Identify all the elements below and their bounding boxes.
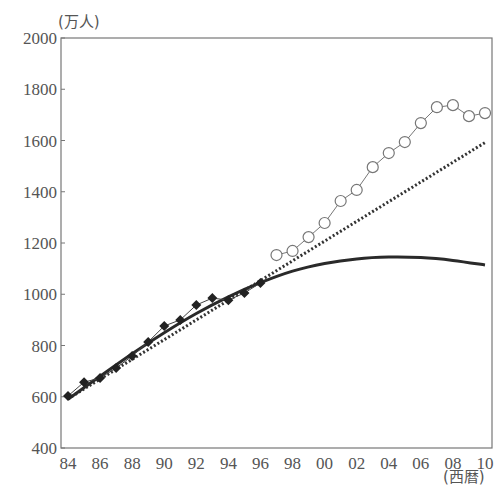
circle-marker: [335, 195, 346, 206]
x-tick-label: 96: [252, 454, 269, 473]
circle-marker: [447, 100, 458, 111]
series-layer: [63, 100, 491, 401]
circle-marker: [463, 111, 474, 122]
x-tick-label: 86: [92, 454, 109, 473]
circle-marker: [383, 148, 394, 159]
circle-marker: [480, 108, 491, 119]
x-tick-label: 84: [60, 454, 78, 473]
circle-marker: [431, 102, 442, 113]
x-tick-label: 04: [380, 454, 398, 473]
x-tick-label: 92: [188, 454, 205, 473]
y-tick-label: 1200: [23, 234, 57, 253]
circle-marker: [271, 250, 282, 261]
circle-marker: [415, 118, 426, 129]
x-tick-label: 90: [156, 454, 173, 473]
y-tick-label: 1400: [23, 183, 57, 202]
y-axis-unit-label: (万人): [58, 13, 100, 31]
fitted-curve-solid: [68, 257, 485, 399]
plot-border: [61, 38, 492, 448]
circle-marker: [287, 245, 298, 256]
y-tick-label: 1800: [23, 80, 57, 99]
y-tick-label: 800: [32, 337, 58, 356]
x-axis-ticks: 8486889092949698000204060810: [60, 454, 494, 473]
x-axis-unit-label: (西暦): [443, 468, 485, 486]
x-tick-label: 88: [124, 454, 141, 473]
y-tick-label: 400: [32, 439, 58, 458]
plot-frame: [61, 38, 492, 448]
x-tick-label: 02: [348, 454, 365, 473]
circle-marker: [351, 184, 362, 195]
line-chart: 400600800100012001400160018002000 848688…: [0, 0, 499, 501]
circle-marker: [303, 232, 314, 243]
circle-marker: [319, 218, 330, 229]
y-tick-label: 1000: [23, 285, 57, 304]
y-tick-label: 1600: [23, 132, 57, 151]
x-tick-label: 00: [316, 454, 333, 473]
x-tick-label: 06: [412, 454, 429, 473]
y-tick-label: 600: [32, 388, 58, 407]
circle-marker: [367, 162, 378, 173]
y-axis-ticks: 400600800100012001400160018002000: [23, 29, 65, 458]
diamond-marker: [255, 278, 265, 288]
y-tick-label: 2000: [23, 29, 57, 48]
x-tick-label: 98: [284, 454, 301, 473]
x-tick-label: 94: [220, 454, 238, 473]
circle-marker: [399, 137, 410, 148]
trend-line-dotted: [68, 143, 485, 399]
